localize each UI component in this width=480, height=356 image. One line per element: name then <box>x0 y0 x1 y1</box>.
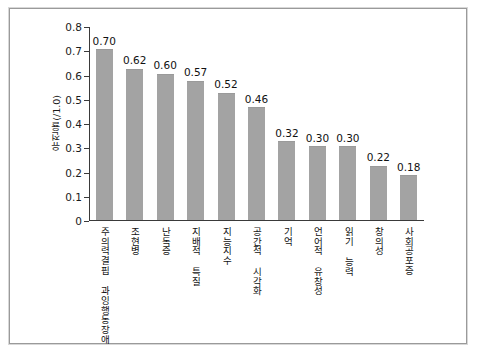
y-tick-label: 0.6 <box>65 70 82 81</box>
y-tick-label: 0 <box>75 216 82 227</box>
bar-group[interactable]: 0.52 <box>218 79 235 220</box>
bar-rect[interactable] <box>218 93 235 220</box>
bar-group[interactable]: 0.60 <box>157 60 174 220</box>
bar-group[interactable]: 0.22 <box>370 152 387 220</box>
category-label: 공간적 시각화 <box>252 227 262 296</box>
y-tick-mark <box>84 197 89 198</box>
bar-value-label: 0.57 <box>184 67 207 78</box>
bar-rect[interactable] <box>187 81 204 220</box>
bar-value-label: 0.62 <box>123 55 146 66</box>
bar-rect[interactable] <box>339 146 356 220</box>
bar-value-label: 0.32 <box>275 128 298 139</box>
y-tick-mark <box>84 76 89 77</box>
bar-group[interactable]: 0.57 <box>187 67 204 220</box>
category-label: 지배적 특질 <box>191 227 201 286</box>
x-axis-line <box>89 220 424 221</box>
bar-value-label: 0.22 <box>367 152 390 163</box>
category-label: 지능지수 <box>221 227 231 266</box>
y-tick-mark <box>84 221 89 222</box>
bar-group[interactable]: 0.70 <box>96 36 113 220</box>
y-tick-label: 0.5 <box>65 95 82 106</box>
category-label: 언어적 유창성 <box>312 227 322 296</box>
bar-rect[interactable] <box>309 146 326 220</box>
category-label: 주의력결핍 과잉행동장애 <box>99 227 109 344</box>
category-label: 읽기 능력 <box>343 227 353 277</box>
y-tick-mark <box>84 100 89 101</box>
category-label: 난독증 <box>160 227 170 256</box>
y-tick-label: 0.1 <box>65 192 82 203</box>
bar-group[interactable]: 0.62 <box>126 55 143 220</box>
y-tick-label: 0.4 <box>65 119 82 130</box>
bar-value-label: 0.30 <box>306 133 329 144</box>
y-tick-label: 0.7 <box>65 46 82 57</box>
bar-rect[interactable] <box>126 69 143 220</box>
bar-rect[interactable] <box>248 107 265 220</box>
bar-group[interactable]: 0.30 <box>309 133 326 220</box>
bar-group[interactable]: 0.46 <box>248 94 265 220</box>
y-tick-label: 0.8 <box>65 22 82 33</box>
category-label: 창의성 <box>373 227 383 256</box>
y-tick-label: 0.2 <box>65 167 82 178</box>
bar-group[interactable]: 0.18 <box>400 162 417 220</box>
bar-value-label: 0.60 <box>153 60 176 71</box>
y-tick-mark <box>84 124 89 125</box>
y-tick-mark <box>84 148 89 149</box>
y-tick-mark <box>84 51 89 52</box>
y-tick-mark <box>84 27 89 28</box>
bar-rect[interactable] <box>157 74 174 221</box>
bar-value-label: 0.18 <box>397 162 420 173</box>
y-axis-line <box>89 27 90 221</box>
bar-value-label: 0.46 <box>245 94 268 105</box>
y-axis-title: 유전율(/1.0) <box>52 95 66 151</box>
bar-rect[interactable] <box>370 166 387 220</box>
bar-group[interactable]: 0.30 <box>339 133 356 220</box>
bar-rect[interactable] <box>278 141 295 220</box>
bar-rect[interactable] <box>96 49 113 220</box>
category-label: 사회공포증 <box>404 227 414 276</box>
bar-group[interactable]: 0.32 <box>278 128 295 220</box>
y-tick-mark <box>84 173 89 174</box>
plot-area: 0.80.70.60.50.40.30.20.10 0.700.620.600.… <box>89 27 424 221</box>
category-label: 조현병 <box>130 227 140 256</box>
y-tick-label: 0.3 <box>65 143 82 154</box>
bar-value-label: 0.30 <box>336 133 359 144</box>
bar-value-label: 0.70 <box>93 36 116 47</box>
category-label: 기억 <box>282 227 292 246</box>
bar-value-label: 0.52 <box>214 79 237 90</box>
bar-rect[interactable] <box>400 175 417 220</box>
